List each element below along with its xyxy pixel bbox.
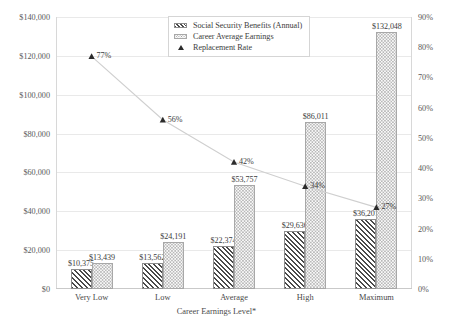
replacement-rate-value-label: 77% [97,51,112,60]
x-axis-title-text: Career Earnings Level* [177,307,257,316]
x-axis-tick-label: Average [220,293,248,302]
y-axis-left-tick-label: $80,000 [0,129,50,138]
y-axis-left-tick-label: $0 [0,285,50,294]
y-axis-right-tick-label: 60% [418,103,458,112]
legend-item-rate: Replacement Rate [174,42,302,53]
legend-item-earnings: Career Average Earnings [174,31,302,42]
y-axis-left-tick-label: $120,000 [0,51,50,60]
y-axis-right-tick-label: 20% [418,224,458,233]
legend-item-benefits: Social Security Benefits (Annual) [174,20,302,31]
y-axis-right-tick-label: 70% [418,73,458,82]
y-axis-left-tick-label: $20,000 [0,246,50,255]
replacement-rate-marker [231,159,237,165]
y-axis-right-tick-label: 80% [418,43,458,52]
y-axis-left-tick-label: $100,000 [0,90,50,99]
replacement-rate-value-label: 56% [168,114,183,123]
y-axis-left-tick-label: $140,000 [0,13,50,22]
y-axis-left-tick-label: $40,000 [0,207,50,216]
x-axis-tick-label: Very Low [75,293,108,302]
replacement-rate-marker [89,53,95,59]
replacement-rate-value-label: 27% [381,202,396,211]
x-axis-title: Career Earnings Level* [0,307,461,316]
y-axis-right-tick-label: 50% [418,133,458,142]
chart-legend: Social Security Benefits (Annual) Career… [168,16,310,57]
replacement-rate-value-label: 34% [310,181,325,190]
y-axis-right-tick-label: 90% [418,13,458,22]
legend-label-earnings: Career Average Earnings [193,32,274,41]
legend-label-benefits: Social Security Benefits (Annual) [193,21,302,30]
x-axis-tick-label: Maximum [359,293,394,302]
legend-swatch-benefits-icon [174,23,187,29]
legend-swatch-rate-triangle-icon [174,45,187,51]
x-axis-tick-label: Low [155,293,170,302]
y-axis-left-tick-label: $60,000 [0,168,50,177]
legend-swatch-earnings-icon [174,34,187,40]
legend-label-rate: Replacement Rate [193,43,252,52]
y-axis-right-tick-label: 0% [418,285,458,294]
replacement-rate-value-label: 42% [239,157,254,166]
replacement-rate-chart: $0$20,000$40,000$60,000$80,000$100,000$1… [0,0,461,326]
y-axis-right-tick-label: 10% [418,254,458,263]
y-axis-right-tick-label: 30% [418,194,458,203]
plot-area: $10,375$13,439$13,562$24,191$22,374$53,7… [56,17,412,289]
y-axis-right-tick-label: 40% [418,164,458,173]
x-axis-tick-label: High [297,293,314,302]
